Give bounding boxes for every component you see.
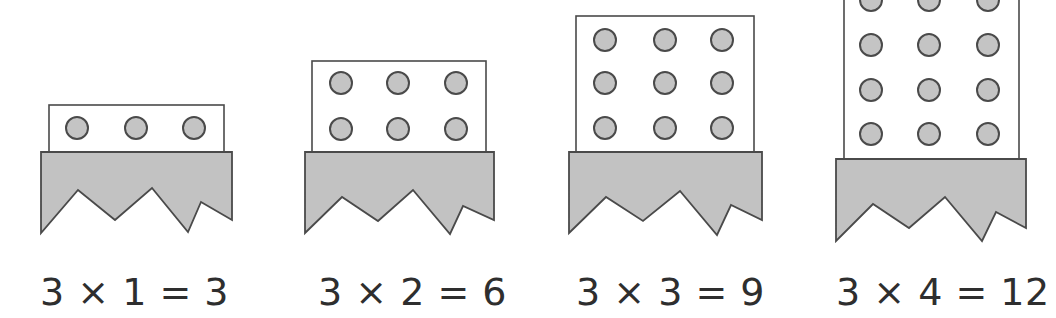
- counter-dot: [654, 29, 676, 51]
- torn-base-shape: [569, 152, 762, 235]
- counter-dot: [594, 117, 616, 139]
- torn-base-shape: [836, 159, 1026, 241]
- counter-dot: [711, 72, 733, 94]
- counter-dot: [387, 72, 409, 94]
- counter-dot: [918, 123, 940, 145]
- counter-dot: [860, 34, 882, 56]
- counter-dot: [66, 117, 88, 139]
- equation-label-3x3: 3 × 3 = 9: [576, 268, 765, 316]
- array-figure-3x4: [836, 0, 1026, 241]
- counter-dot: [918, 79, 940, 101]
- equation-label-3x1: 3 × 1 = 3: [40, 268, 229, 316]
- counter-dot: [594, 72, 616, 94]
- array-figure-3x3: [569, 16, 762, 235]
- counter-dot: [977, 123, 999, 145]
- counter-dot: [711, 29, 733, 51]
- equation-label-3x4: 3 × 4 = 12: [836, 268, 1050, 316]
- counter-dot: [654, 117, 676, 139]
- counter-dot: [330, 118, 352, 140]
- counter-dot: [594, 29, 616, 51]
- counter-dot: [445, 72, 467, 94]
- equation-label-3x2: 3 × 2 = 6: [318, 268, 507, 316]
- counter-dot: [330, 72, 352, 94]
- torn-base-shape: [41, 152, 232, 233]
- counter-dot: [711, 117, 733, 139]
- counter-dot: [654, 72, 676, 94]
- counter-dot: [860, 79, 882, 101]
- counter-dot: [918, 34, 940, 56]
- array-figure-3x1: [41, 105, 232, 233]
- counter-dot: [445, 118, 467, 140]
- counter-dot: [977, 34, 999, 56]
- counter-dot: [387, 118, 409, 140]
- torn-base-shape: [305, 152, 494, 234]
- counter-dot: [977, 79, 999, 101]
- counter-dot: [860, 123, 882, 145]
- counter-dot: [125, 117, 147, 139]
- counter-dot: [183, 117, 205, 139]
- array-figure-3x2: [305, 61, 494, 234]
